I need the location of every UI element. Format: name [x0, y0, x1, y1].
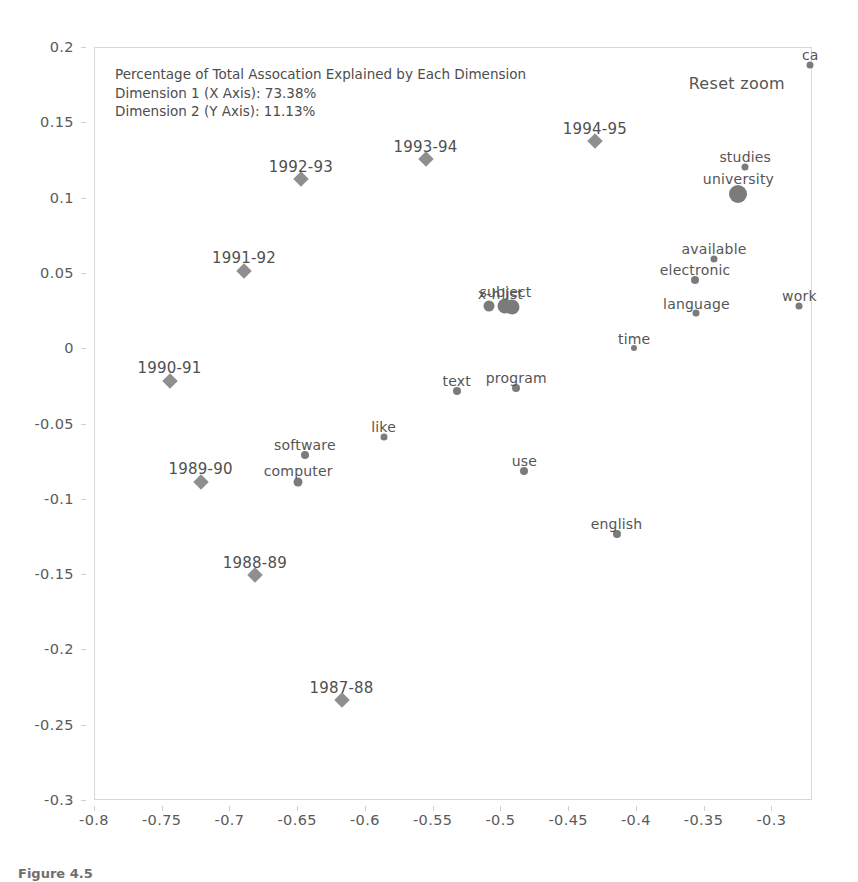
word-point-marker[interactable]	[484, 300, 495, 311]
x-tick-mark	[636, 806, 637, 811]
y-tick-mark	[81, 725, 86, 726]
x-tick-mark	[229, 806, 230, 811]
y-tick-label: 0.05	[40, 265, 74, 281]
x-tick-label: -0.6	[350, 812, 380, 828]
x-tick-mark	[433, 806, 434, 811]
x-tick-mark	[94, 806, 95, 811]
annotation-line-1: Percentage of Total Assocation Explained…	[115, 65, 526, 84]
plot-area[interactable]: Percentage of Total Assocation Explained…	[94, 47, 812, 800]
word-point-marker[interactable]	[807, 61, 814, 68]
correspondence-analysis-figure: 0.20.150.10.050-0.05-0.1-0.15-0.2-0.25-0…	[0, 0, 858, 882]
x-tick-mark	[704, 806, 705, 811]
x-tick-label: -0.7	[215, 812, 245, 828]
y-tick-mark	[81, 800, 86, 801]
y-tick-mark	[81, 122, 86, 123]
word-point-marker[interactable]	[294, 477, 303, 486]
word-point-marker[interactable]	[301, 451, 309, 459]
word-point-marker[interactable]	[512, 384, 520, 392]
x-tick-label: -0.8	[79, 812, 109, 828]
y-tick-mark	[81, 424, 86, 425]
x-tick-mark	[771, 806, 772, 811]
y-tick-label: -0.1	[44, 491, 74, 507]
y-tick-label: -0.05	[34, 416, 74, 432]
annotation-line-3: Dimension 2 (Y Axis): 11.13%	[115, 102, 526, 121]
year-point-marker[interactable]	[293, 171, 309, 187]
figure-caption: Figure 4.5	[18, 866, 93, 882]
x-tick-mark	[162, 806, 163, 811]
y-tick-mark	[81, 574, 86, 575]
x-tick-label: -0.65	[277, 812, 317, 828]
year-point-marker[interactable]	[236, 263, 252, 279]
word-point-marker[interactable]	[711, 255, 718, 262]
x-tick-mark	[365, 806, 366, 811]
x-tick-mark	[297, 806, 298, 811]
x-tick-label: -0.4	[621, 812, 651, 828]
y-tick-mark	[81, 198, 86, 199]
y-tick-label: 0.1	[50, 190, 74, 206]
word-point-marker[interactable]	[796, 302, 803, 309]
word-point-marker[interactable]	[742, 163, 749, 170]
word-point-marker[interactable]	[729, 185, 747, 203]
year-point-marker[interactable]	[587, 134, 603, 150]
year-point-marker[interactable]	[418, 152, 434, 168]
word-point-marker[interactable]	[631, 345, 637, 351]
year-point-marker[interactable]	[162, 373, 178, 389]
word-point-marker[interactable]	[380, 433, 387, 440]
x-tick-label: -0.5	[485, 812, 515, 828]
annotation-line-2: Dimension 1 (X Axis): 73.38%	[115, 84, 526, 103]
x-tick-label: -0.3	[756, 812, 786, 828]
x-tick-label: -0.35	[684, 812, 724, 828]
y-tick-mark	[81, 273, 86, 274]
x-tick-label: -0.55	[413, 812, 453, 828]
word-point-marker[interactable]	[453, 387, 461, 395]
word-point-marker[interactable]	[693, 310, 700, 317]
year-point-marker[interactable]	[193, 474, 209, 490]
dimension-variance-annotation: Percentage of Total Assocation Explained…	[115, 65, 526, 121]
word-point-marker[interactable]	[691, 276, 699, 284]
year-point-marker[interactable]	[334, 692, 350, 708]
word-point-marker[interactable]	[613, 530, 621, 538]
y-tick-label: -0.3	[44, 792, 74, 808]
word-point-marker[interactable]	[505, 300, 520, 315]
y-tick-mark	[81, 348, 86, 349]
x-axis: -0.8-0.75-0.7-0.65-0.6-0.55-0.5-0.45-0.4…	[94, 806, 812, 832]
word-point-marker[interactable]	[520, 467, 528, 475]
x-tick-mark	[500, 806, 501, 811]
y-tick-label: -0.2	[44, 641, 74, 657]
x-tick-label: -0.75	[142, 812, 182, 828]
y-tick-mark	[81, 47, 86, 48]
reset-zoom-button[interactable]: Reset zoom	[689, 74, 785, 93]
y-tick-mark	[81, 499, 86, 500]
y-tick-label: 0	[64, 340, 74, 356]
y-tick-label: 0.2	[50, 39, 74, 55]
y-tick-label: -0.15	[34, 566, 74, 582]
x-tick-label: -0.45	[548, 812, 588, 828]
y-tick-mark	[81, 649, 86, 650]
y-tick-label: -0.25	[34, 717, 74, 733]
x-tick-mark	[568, 806, 569, 811]
y-tick-label: 0.15	[40, 114, 74, 130]
y-axis: 0.20.150.10.050-0.05-0.1-0.15-0.2-0.25-0…	[0, 47, 86, 800]
year-point-marker[interactable]	[247, 567, 263, 583]
